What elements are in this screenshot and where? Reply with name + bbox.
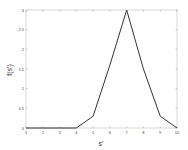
y-tick-label: 2.5: [18, 27, 24, 32]
x-tick-label: 4: [75, 130, 78, 135]
x-tick-label: 1: [25, 130, 28, 135]
x-tick-label: 9: [159, 130, 162, 135]
y-axis-label: f(s'): [6, 64, 14, 75]
y-tick-label: 3: [22, 8, 25, 13]
y-tick-label: 2: [22, 47, 25, 52]
line-chart: 12345678910 00.511.522.53 s' f(s'): [0, 0, 188, 150]
x-tick-label: 2: [42, 130, 45, 135]
y-tick-label: 0.5: [18, 106, 24, 111]
x-tick-label: 6: [109, 130, 112, 135]
x-tick-label: 7: [126, 130, 129, 135]
x-tick-label: 5: [92, 130, 95, 135]
x-tick-label: 3: [58, 130, 61, 135]
x-axis-label: s': [99, 140, 104, 147]
y-tick-label: 1.5: [18, 67, 24, 72]
y-tick-label: 1: [22, 86, 25, 91]
plot-area: [26, 10, 177, 128]
x-tick-label: 10: [175, 130, 180, 135]
x-tick-label: 8: [142, 130, 145, 135]
